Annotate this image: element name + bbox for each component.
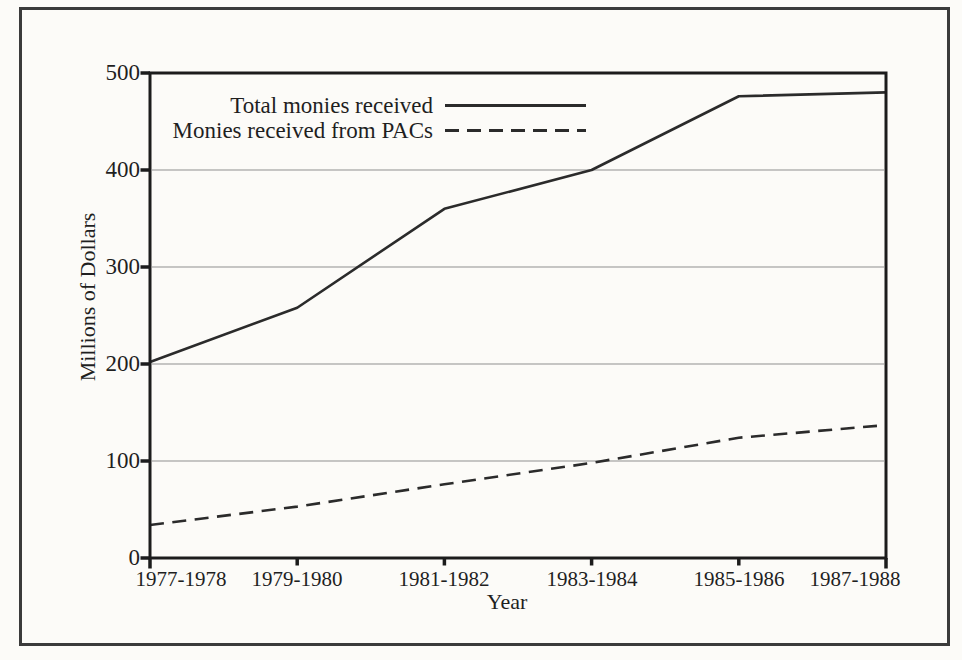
y-tick-label-500: 500 (106, 61, 141, 85)
legend-label-pacs: Monies received from PACs (150, 118, 433, 143)
x-tick-label-1983-1984: 1983-1984 (547, 568, 638, 590)
plot-frame (150, 73, 886, 558)
x-tick-label-1987-1988: 1987-1988 (810, 568, 901, 590)
x-tick-label-1981-1982: 1981-1982 (399, 568, 490, 590)
y-axis-title: Millions of Dollars (75, 213, 101, 382)
x-tick-label-1977-1978: 1977-1978 (136, 568, 227, 590)
x-tick-label-1985-1986: 1985-1986 (694, 568, 785, 590)
x-axis-title: Year (487, 589, 528, 615)
pac-monies-line (150, 425, 886, 525)
legend-label-total: Total monies received (150, 93, 433, 118)
dashed-line-sample (445, 129, 586, 132)
y-tick-label-100: 100 (106, 449, 141, 473)
x-tick-label-1979-1980: 1979-1980 (252, 568, 343, 590)
y-tick-label-400: 400 (106, 158, 141, 182)
y-tick-label-200: 200 (106, 352, 141, 376)
legend-item-pacs: Monies received from PACs (150, 118, 586, 143)
legend-item-total: Total monies received (150, 93, 586, 118)
solid-line-sample (445, 104, 586, 107)
scanned-chart-page: 500 400 300 200 100 0 1977-1978 1979-198… (0, 0, 962, 660)
y-tick-label-300: 300 (106, 255, 141, 279)
